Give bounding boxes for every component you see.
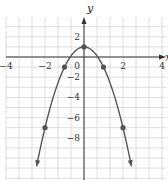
axes	[6, 17, 166, 180]
svg-text:2: 2	[74, 32, 80, 42]
svg-text:−4: −4	[67, 92, 81, 102]
grid-lines	[6, 17, 166, 180]
svg-text:0: 0	[74, 61, 80, 71]
svg-text:2: 2	[120, 61, 126, 71]
svg-text:−4: −4	[0, 61, 13, 71]
svg-text:−6: −6	[67, 113, 81, 123]
parabola-graph: −4−20242−2−4−6−8 x y	[0, 0, 168, 180]
svg-text:−2: −2	[67, 72, 80, 82]
svg-text:−8: −8	[67, 133, 81, 143]
svg-text:−2: −2	[38, 61, 51, 71]
x-axis-label: x	[165, 51, 168, 64]
y-axis-label: y	[86, 2, 94, 15]
